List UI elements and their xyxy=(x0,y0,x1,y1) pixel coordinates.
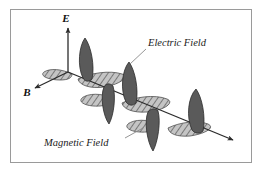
em-wave-figure: E B Electric Field Magnetic Field xyxy=(0,0,264,175)
magnetic-field-label: Magnetic Field xyxy=(43,137,109,148)
magnetic-axis-label: B xyxy=(22,86,30,98)
electric-lobe-2-up xyxy=(122,62,137,105)
electric-axis-label: E xyxy=(61,12,69,24)
electric-field-label: Electric Field xyxy=(147,37,207,48)
electric-lobe-2-down xyxy=(146,109,159,151)
electric-lobe-3-up xyxy=(189,89,205,133)
electric-lobe-1-down xyxy=(102,84,114,124)
electric-field-leader-line xyxy=(130,49,146,64)
electric-lobe-1-up xyxy=(79,38,93,81)
